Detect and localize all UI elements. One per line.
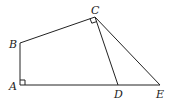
segment-bc xyxy=(20,17,95,43)
label-e: E xyxy=(155,88,164,101)
segment-ce xyxy=(95,17,160,85)
right-angle-mark-a xyxy=(20,80,25,85)
label-a: A xyxy=(8,80,17,93)
label-d: D xyxy=(113,88,123,101)
label-c: C xyxy=(91,4,100,17)
segment-cd xyxy=(95,17,118,85)
geometry-diagram: B A C D E xyxy=(0,0,171,104)
label-b: B xyxy=(8,38,17,51)
